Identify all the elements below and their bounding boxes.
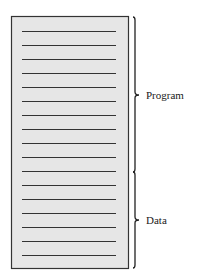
braces <box>133 17 139 268</box>
program-brace-icon <box>133 17 139 172</box>
program-label: Program <box>146 89 184 101</box>
data-brace-icon <box>133 172 139 268</box>
memory-diagram-svg <box>0 0 197 279</box>
data-label: Data <box>146 214 167 226</box>
memory-diagram: Program Data <box>0 0 197 279</box>
memory-block <box>12 17 129 269</box>
